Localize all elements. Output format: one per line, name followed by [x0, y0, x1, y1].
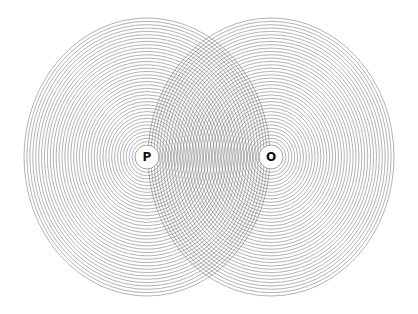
source-p-marker: P: [135, 145, 159, 169]
source-p-label: P: [143, 150, 152, 164]
source-o-marker: O: [259, 145, 283, 169]
source-o-label: O: [266, 150, 276, 164]
interference-diagram: P O: [0, 0, 418, 314]
